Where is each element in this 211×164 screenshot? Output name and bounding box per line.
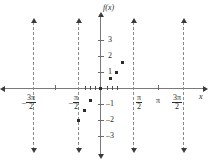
asymptote-arrow-up <box>31 18 37 23</box>
x-tick-minor <box>107 86 108 90</box>
fraction: 3π2 <box>172 94 182 112</box>
y-tick-3 <box>98 40 104 41</box>
x-axis-right-arrowhead <box>203 86 208 92</box>
y-tick-label-neg-1: –1 <box>106 100 114 108</box>
data-point <box>83 109 86 112</box>
y-axis-bottom-arrowhead <box>98 154 104 159</box>
asymptote-arrow-down <box>31 148 37 153</box>
x-tick-label-three-pi-over-two: 3π2 <box>172 94 182 112</box>
data-point <box>109 77 112 80</box>
fraction: π2 <box>136 94 142 112</box>
x-tick-minor <box>85 86 86 90</box>
asymptote-arrow-down <box>181 148 187 153</box>
x-tick-minor <box>90 86 91 90</box>
data-point <box>121 61 124 64</box>
x-axis-line <box>4 88 207 89</box>
y-tick-2 <box>98 56 104 57</box>
data-point <box>99 87 102 90</box>
x-tick-label-neg-three-pi-over-two: –3π2 <box>22 94 36 112</box>
y-tick-neg-3 <box>98 136 104 137</box>
asymptote-arrow-up <box>76 18 82 23</box>
data-point <box>89 99 92 102</box>
y-tick-value: 1 <box>110 99 114 108</box>
x-tick-label-neg-pi-over-two: –π2 <box>69 94 79 112</box>
x-tick-minor <box>95 86 96 90</box>
fraction-denominator: 2 <box>26 103 36 111</box>
x-axis-label: x <box>199 92 203 101</box>
asymptote-arrow-up <box>181 18 187 23</box>
x-tick-minor <box>112 86 113 90</box>
x-tick-pi <box>158 85 159 90</box>
y-axis-line <box>100 16 101 156</box>
y-axis-top-arrowhead <box>98 12 104 17</box>
y-tick-value: 2 <box>110 115 114 124</box>
y-axis-label: f(x) <box>103 3 114 12</box>
x-tick-label-pi-over-two: π2 <box>136 94 142 112</box>
fraction: π2 <box>73 94 79 112</box>
data-point <box>77 119 80 122</box>
asymptote-pi-over-two <box>133 22 134 150</box>
y-tick-neg-1 <box>98 104 104 105</box>
y-tick-label-2: 2 <box>108 52 112 60</box>
y-tick-label-neg-3: –3 <box>106 132 114 140</box>
fraction-denominator: 2 <box>73 103 79 111</box>
fraction: 3π2 <box>26 94 36 112</box>
x-tick-minor <box>117 86 118 90</box>
x-tick-label-pi: π <box>156 97 160 105</box>
asymptote-neg-three-pi-over-two <box>33 22 34 150</box>
asymptote-neg-pi-over-two <box>78 22 79 150</box>
fraction-denominator: 2 <box>136 103 142 111</box>
y-tick-1 <box>98 72 104 73</box>
data-point <box>115 71 118 74</box>
fraction-denominator: 2 <box>172 103 182 111</box>
y-tick-label-3: 3 <box>108 36 112 44</box>
asymptote-arrow-down <box>131 148 137 153</box>
trig-function-scatter-plot: f(x) x 3 2 1 –1 –2 –3 –3π2 –π2 <box>0 0 211 164</box>
asymptote-arrow-down <box>76 148 82 153</box>
x-tick-neg-pi <box>55 85 56 90</box>
asymptote-three-pi-over-two <box>183 22 184 150</box>
y-tick-value: 3 <box>110 131 114 140</box>
y-tick-neg-2 <box>98 120 104 121</box>
y-tick-label-1: 1 <box>108 68 112 76</box>
y-tick-label-neg-2: –2 <box>106 116 114 124</box>
asymptote-arrow-up <box>131 18 137 23</box>
x-axis-left-arrowhead <box>0 86 5 92</box>
